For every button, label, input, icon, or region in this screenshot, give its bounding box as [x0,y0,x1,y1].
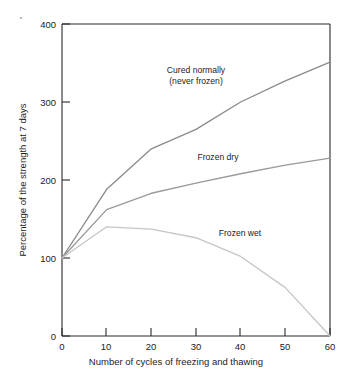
series-line-cured-normally [62,62,330,258]
line-chart-plot: 400 300 200 100 0 0 10 20 30 40 50 60 Nu… [0,0,353,378]
series-line-frozen-wet [62,227,330,336]
x-tick-label-50: 50 [280,341,291,352]
series-label-frozen-dry: Frozen dry [197,152,239,162]
y-axis-title: Percentage of the strength at 7 days [17,103,28,256]
x-tick-label-0: 0 [59,341,64,352]
chart-figure: 400 300 200 100 0 0 10 20 30 40 50 60 Nu… [0,0,353,378]
y-tick-label-400: 400 [40,19,56,30]
series-label-cured-normally-line1: Cured normally [167,65,226,75]
y-tick-label-100: 100 [40,253,56,264]
series-label-frozen-wet: Frozen wet [219,228,262,238]
series-line-frozen-dry [62,158,330,258]
x-tick-label-10: 10 [101,341,112,352]
x-tick-label-40: 40 [235,341,246,352]
x-axis-title: Number of cycles of freezing and thawing [89,356,263,367]
x-tick-label-20: 20 [146,341,157,352]
x-tick-label-60: 60 [325,341,336,352]
y-tick-label-200: 200 [40,175,56,186]
speck-artifact [20,17,22,19]
x-tick-label-30: 30 [191,341,202,352]
series-label-cured-normally-line2: (never frozen) [169,76,223,86]
y-tick-label-0: 0 [51,331,56,342]
y-tick-label-300: 300 [40,97,56,108]
